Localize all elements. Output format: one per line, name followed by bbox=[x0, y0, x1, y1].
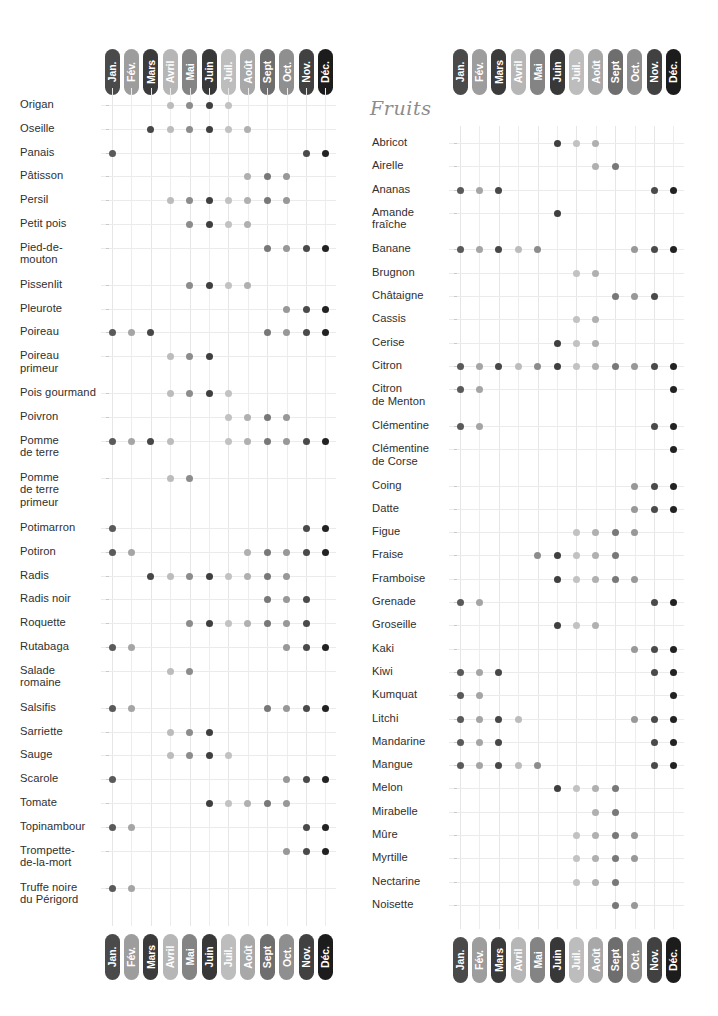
season-dot[interactable] bbox=[225, 752, 232, 759]
season-dot[interactable] bbox=[670, 483, 677, 490]
season-dot[interactable] bbox=[515, 363, 522, 370]
season-dot[interactable] bbox=[631, 716, 638, 723]
season-dot[interactable] bbox=[244, 197, 251, 204]
season-dot[interactable] bbox=[264, 438, 271, 445]
season-dot[interactable] bbox=[264, 705, 271, 712]
season-dot[interactable] bbox=[244, 221, 251, 228]
season-dot[interactable] bbox=[244, 800, 251, 807]
season-dot[interactable] bbox=[109, 438, 116, 445]
month-pill-fév[interactable]: Fév. bbox=[472, 937, 487, 983]
season-dot[interactable] bbox=[264, 800, 271, 807]
season-dot[interactable] bbox=[495, 739, 502, 746]
season-dot[interactable] bbox=[554, 622, 561, 629]
season-dot[interactable] bbox=[322, 776, 329, 783]
season-dot[interactable] bbox=[186, 668, 193, 675]
season-dot[interactable] bbox=[612, 785, 619, 792]
month-pill-nov[interactable]: Nov. bbox=[299, 934, 314, 980]
season-dot[interactable] bbox=[515, 246, 522, 253]
season-dot[interactable] bbox=[612, 902, 619, 909]
season-dot[interactable] bbox=[592, 785, 599, 792]
season-dot[interactable] bbox=[303, 848, 310, 855]
season-dot[interactable] bbox=[573, 832, 580, 839]
season-dot[interactable] bbox=[573, 622, 580, 629]
season-dot[interactable] bbox=[534, 246, 541, 253]
season-dot[interactable] bbox=[109, 824, 116, 831]
month-pill-fév[interactable]: Fév. bbox=[124, 934, 139, 980]
season-dot[interactable] bbox=[534, 552, 541, 559]
season-dot[interactable] bbox=[186, 282, 193, 289]
season-dot[interactable] bbox=[670, 599, 677, 606]
season-dot[interactable] bbox=[457, 423, 464, 430]
season-dot[interactable] bbox=[283, 800, 290, 807]
season-dot[interactable] bbox=[651, 483, 658, 490]
season-dot[interactable] bbox=[573, 140, 580, 147]
season-dot[interactable] bbox=[476, 692, 483, 699]
season-dot[interactable] bbox=[573, 879, 580, 886]
season-dot[interactable] bbox=[631, 293, 638, 300]
season-dot[interactable] bbox=[244, 414, 251, 421]
season-dot[interactable] bbox=[244, 126, 251, 133]
season-dot[interactable] bbox=[515, 716, 522, 723]
season-dot[interactable] bbox=[206, 573, 213, 580]
season-dot[interactable] bbox=[186, 729, 193, 736]
season-dot[interactable] bbox=[651, 423, 658, 430]
month-pill-août[interactable]: Août bbox=[588, 49, 603, 95]
season-dot[interactable] bbox=[244, 620, 251, 627]
season-dot[interactable] bbox=[109, 885, 116, 892]
season-dot[interactable] bbox=[322, 150, 329, 157]
season-dot[interactable] bbox=[225, 390, 232, 397]
season-dot[interactable] bbox=[592, 552, 599, 559]
season-dot[interactable] bbox=[264, 620, 271, 627]
season-dot[interactable] bbox=[612, 832, 619, 839]
season-dot[interactable] bbox=[167, 102, 174, 109]
season-dot[interactable] bbox=[670, 446, 677, 453]
season-dot[interactable] bbox=[128, 644, 135, 651]
season-dot[interactable] bbox=[264, 414, 271, 421]
season-dot[interactable] bbox=[303, 306, 310, 313]
month-pill-sept[interactable]: Sept bbox=[260, 934, 275, 980]
season-dot[interactable] bbox=[592, 855, 599, 862]
season-dot[interactable] bbox=[322, 705, 329, 712]
season-dot[interactable] bbox=[631, 646, 638, 653]
season-dot[interactable] bbox=[612, 529, 619, 536]
season-dot[interactable] bbox=[303, 150, 310, 157]
season-dot[interactable] bbox=[670, 187, 677, 194]
month-pill-mars[interactable]: Mars bbox=[491, 937, 506, 983]
season-dot[interactable] bbox=[495, 187, 502, 194]
month-pill-fév[interactable]: Fév. bbox=[472, 49, 487, 95]
season-dot[interactable] bbox=[534, 363, 541, 370]
season-dot[interactable] bbox=[592, 316, 599, 323]
season-dot[interactable] bbox=[206, 282, 213, 289]
season-dot[interactable] bbox=[670, 506, 677, 513]
season-dot[interactable] bbox=[147, 126, 154, 133]
season-dot[interactable] bbox=[592, 363, 599, 370]
season-dot[interactable] bbox=[612, 879, 619, 886]
season-dot[interactable] bbox=[283, 596, 290, 603]
season-dot[interactable] bbox=[109, 329, 116, 336]
season-dot[interactable] bbox=[515, 762, 522, 769]
season-dot[interactable] bbox=[225, 438, 232, 445]
month-pill-juil[interactable]: Juil. bbox=[221, 934, 236, 980]
season-dot[interactable] bbox=[534, 762, 541, 769]
month-pill-avril[interactable]: Avril bbox=[511, 937, 526, 983]
season-dot[interactable] bbox=[283, 644, 290, 651]
season-dot[interactable] bbox=[651, 363, 658, 370]
season-dot[interactable] bbox=[670, 762, 677, 769]
season-dot[interactable] bbox=[651, 246, 658, 253]
season-dot[interactable] bbox=[322, 644, 329, 651]
season-dot[interactable] bbox=[206, 197, 213, 204]
season-dot[interactable] bbox=[612, 552, 619, 559]
month-pill-mai[interactable]: Mai bbox=[530, 49, 545, 95]
month-pill-déc[interactable]: Déc. bbox=[666, 49, 681, 95]
season-dot[interactable] bbox=[303, 776, 310, 783]
month-pill-juil[interactable]: Juil. bbox=[569, 937, 584, 983]
season-dot[interactable] bbox=[283, 414, 290, 421]
month-pill-mars[interactable]: Mars bbox=[143, 934, 158, 980]
month-pill-juin[interactable]: Juin bbox=[550, 49, 565, 95]
season-dot[interactable] bbox=[167, 668, 174, 675]
season-dot[interactable] bbox=[457, 599, 464, 606]
season-dot[interactable] bbox=[651, 716, 658, 723]
season-dot[interactable] bbox=[283, 173, 290, 180]
season-dot[interactable] bbox=[476, 363, 483, 370]
season-dot[interactable] bbox=[244, 573, 251, 580]
